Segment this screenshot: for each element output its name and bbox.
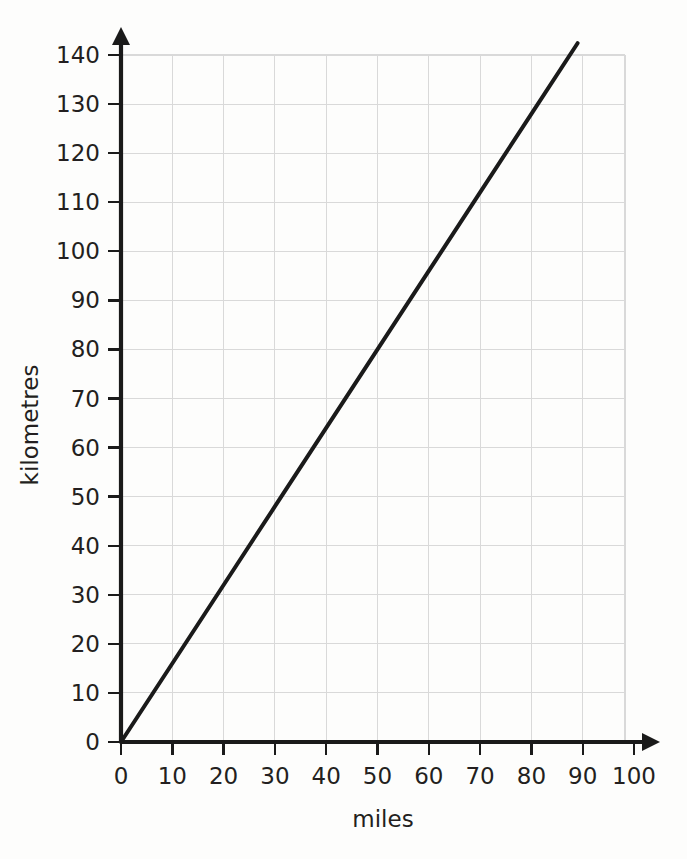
x-tick-label: 90 [568,763,597,789]
y-tick-label: 140 [56,42,100,68]
y-tick-label: 50 [71,484,100,510]
y-tick-label: 30 [71,582,100,608]
y-tick-label: 10 [71,680,100,706]
y-tick-label: 90 [71,287,100,313]
y-tick-label: 40 [71,533,100,559]
x-tick-label: 70 [465,763,494,789]
y-tick-label: 60 [71,435,100,461]
y-tick-label: 100 [56,238,100,264]
x-tick-label: 0 [114,763,129,789]
x-tick-label: 50 [363,763,392,789]
x-tick-label: 80 [517,763,546,789]
x-tick-label: 40 [312,763,341,789]
chart-canvas: 0102030405060708090100 01020304050607080… [0,0,687,859]
chart-background [0,0,687,859]
x-tick-label: 60 [414,763,443,789]
x-tick-label: 30 [260,763,289,789]
y-tick-label: 110 [56,189,100,215]
y-tick-label: 130 [56,91,100,117]
y-tick-label: 0 [85,729,100,755]
y-tick-label: 70 [71,386,100,412]
x-tick-label: 20 [209,763,238,789]
y-tick-label: 120 [56,140,100,166]
x-tick-label: 10 [158,763,187,789]
conversion-graph: 0102030405060708090100 01020304050607080… [0,0,687,859]
y-tick-label: 20 [71,631,100,657]
y-axis-title: kilometres [17,365,43,486]
y-tick-label: 80 [71,336,100,362]
x-tick-label: 100 [612,763,656,789]
x-axis-title: miles [352,806,413,832]
